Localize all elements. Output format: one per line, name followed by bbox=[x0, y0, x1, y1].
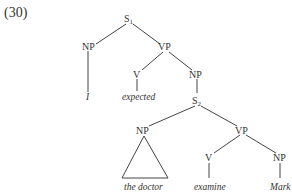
word-i: I bbox=[85, 92, 90, 102]
np-triangle bbox=[122, 136, 168, 178]
node-v-embedded: V bbox=[205, 152, 213, 163]
node-np-embedded-subject: NP bbox=[136, 125, 149, 136]
word-expected: expected bbox=[122, 92, 155, 102]
branch-s2-np bbox=[149, 106, 195, 126]
branch-vp2-np bbox=[246, 135, 276, 153]
example-number: (30) bbox=[4, 5, 27, 21]
node-np-subject: NP bbox=[82, 41, 95, 52]
node-s2: S2 bbox=[192, 95, 202, 108]
node-v-main: V bbox=[133, 69, 141, 80]
node-vp-main: VP bbox=[158, 41, 171, 52]
branch-s1-np bbox=[96, 24, 126, 44]
branch-vp2-v bbox=[214, 135, 240, 153]
word-examine: examine bbox=[194, 182, 226, 192]
word-the-doctor: the doctor bbox=[124, 182, 163, 192]
branch-vp-np bbox=[169, 52, 192, 70]
branch-s2-vp bbox=[201, 106, 237, 126]
node-np-object: NP bbox=[189, 69, 202, 80]
node-np-embedded-object: NP bbox=[273, 152, 286, 163]
branch-s1-vp bbox=[133, 24, 160, 44]
branch-vp-v bbox=[142, 52, 163, 70]
word-mark: Mark bbox=[269, 182, 291, 192]
tree-svg: S1 NP VP I V expected NP S2 NP VP the do… bbox=[0, 0, 292, 195]
syntax-tree-diagram: (30) S1 NP VP I V expected NP S2 NP VP t… bbox=[0, 0, 292, 195]
node-vp-embedded: VP bbox=[235, 125, 248, 136]
